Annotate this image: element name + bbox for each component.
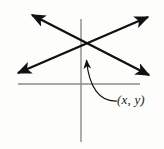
leader-curve xyxy=(87,60,118,101)
figure-canvas xyxy=(0,0,164,149)
point-label: (x, y) xyxy=(117,92,145,107)
coordinate-plane-figure: (x, y) xyxy=(0,0,164,149)
